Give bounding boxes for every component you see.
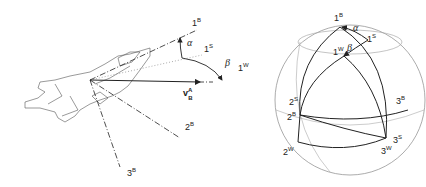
beta-arc — [182, 58, 222, 80]
label-1S: 1S — [204, 43, 213, 54]
axis-2B-line — [90, 80, 180, 138]
curve-2B-3S — [300, 115, 386, 138]
label-sphere-1W: 1W — [333, 46, 344, 57]
curve-2B-3B — [300, 110, 408, 119]
curve-1W-2B — [300, 56, 344, 115]
label-3B: 3B — [127, 167, 136, 178]
label-sphere-2B: 2B — [287, 111, 296, 122]
aircraft-outline — [25, 48, 150, 122]
curve-1W-3S — [344, 56, 386, 138]
label-alpha: α — [187, 37, 193, 48]
curve-2W-3S — [298, 138, 386, 148]
label-sphere-beta: β — [346, 42, 352, 53]
label-sphere-3B: 3B — [396, 95, 405, 106]
curve-1B-2B — [300, 27, 340, 115]
alpha-arc — [180, 38, 182, 58]
label-sphere-alpha: α — [353, 22, 359, 33]
curve-2B-2W — [298, 115, 300, 142]
label-velocity: vAB — [183, 87, 193, 101]
axis-3B-line — [90, 80, 120, 167]
label-sphere-2S: 2S — [289, 96, 298, 107]
label-sphere-3W: 3W — [381, 145, 392, 156]
label-1B: 1B — [192, 17, 201, 28]
axis-1B-line — [90, 30, 197, 80]
sphere-figure: 1B α 1S 1W β 2S 2B 2W 3B 3S 3W — [275, 12, 425, 175]
label-1W: 1W — [238, 62, 249, 73]
label-sphere-1S: 1S — [367, 33, 376, 44]
label-sphere-2W: 2W — [283, 146, 294, 157]
velocity-vector — [90, 80, 200, 82]
axes-diagram: 1B α 1S β 1W vAB 2B 3B 1B α 1S 1W β — [0, 0, 426, 187]
label-sphere-3S: 3S — [393, 134, 402, 145]
aircraft-figure: 1B α 1S β 1W vAB 2B 3B — [25, 17, 249, 178]
label-2B: 2B — [185, 121, 194, 132]
label-sphere-1B: 1B — [334, 12, 343, 23]
label-beta: β — [224, 57, 230, 68]
